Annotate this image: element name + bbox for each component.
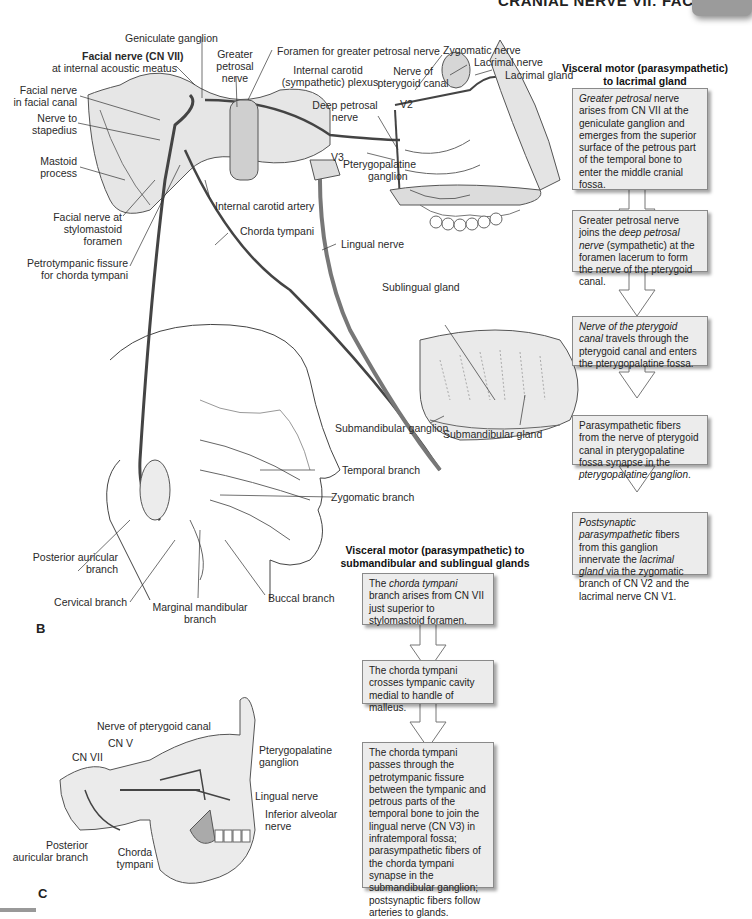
flow-salivary-title: Visceral motor (parasympathetic) to subm… [340,544,530,569]
step-5-italic: Postsynaptic parasympathetic [579,517,652,540]
step-4-text: . [688,469,691,480]
flow-lacrimal-step-2: Greater petrosal nerve joins the deep pe… [572,210,708,272]
flow-salivary-step-1: The chorda tympani branch arises from CN… [362,573,494,625]
flow-salivary-title-line2: submandibular and sublingual glands [340,557,530,570]
flow-lacrimal-step-5: Postsynaptic parasympathetic fibers from… [572,512,708,575]
step-1-italic: Greater petrosal [579,93,651,104]
salivary-step-3-text: The chorda tympani passes through the pe… [369,747,486,918]
salivary-step-1-text: branch arises from CN VII just superior … [369,590,484,626]
step-4-pre: Parasympathetic fibers from the nerve of… [579,420,699,468]
step-4-italic: pterygopalatine ganglion [579,469,688,480]
salivary-step-1-pre: The [369,578,389,589]
flow-lacrimal-step-1: Greater petrosal nerve arises from CN VI… [572,88,708,190]
flow-salivary-step-3: The chorda tympani passes through the pe… [362,742,494,888]
flow-salivary-step-2: The chorda tympani crosses tympanic cavi… [362,660,494,704]
step-1-text: nerve arises from CN VII at the genicula… [579,93,696,190]
salivary-step-1-italic: chorda tympani [389,578,457,589]
flow-salivary-title-line1: Visceral motor (parasympathetic) to [340,544,530,557]
flow-lacrimal-step-3: Nerve of the pterygoid canal travels thr… [572,316,708,366]
flow-lacrimal-step-4: Parasympathetic fibers from the nerve of… [572,415,708,465]
